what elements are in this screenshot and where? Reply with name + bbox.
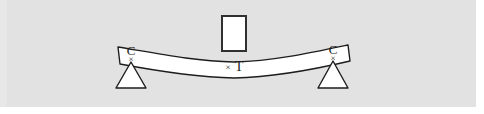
beam-diagram-screenshot: C × C × × T xyxy=(0,0,484,114)
load-block xyxy=(222,16,246,51)
tension-mark-icon: × xyxy=(225,62,230,72)
compression-mark-right-icon: × xyxy=(330,53,335,63)
beam-diagram: C × C × × T xyxy=(0,0,484,114)
compression-mark-left-icon: × xyxy=(128,54,133,64)
tension-label: T xyxy=(235,59,244,74)
